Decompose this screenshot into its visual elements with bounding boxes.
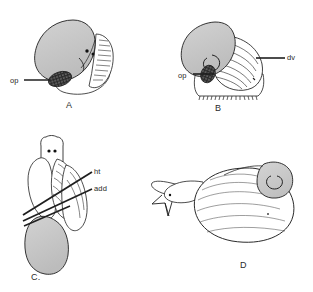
panel-d-eyespot xyxy=(169,194,171,196)
panel-a-eyespot-right xyxy=(92,53,95,56)
panel-d-apical-spire xyxy=(257,162,293,198)
panel-c-eyespot-right xyxy=(53,149,56,152)
panel-a-eyespot-left xyxy=(85,49,88,52)
panel-letter-b: B xyxy=(215,103,221,113)
panel-letter-a: A xyxy=(66,100,72,110)
figure-plate xyxy=(0,0,313,292)
panel-c-eyespot-left xyxy=(47,149,50,152)
annotation-ht-panel-c: ht xyxy=(94,167,101,176)
panel-letter-d: D xyxy=(240,260,247,270)
panel-letter-c: C. xyxy=(31,272,41,282)
annotation-add-panel-c: add xyxy=(94,184,107,193)
panel-d-surface-dot xyxy=(267,213,269,215)
annotation-op-panel-a: op xyxy=(10,76,19,85)
annotation-op-panel-b: op xyxy=(178,71,187,80)
annotation-dv-panel-b: dv xyxy=(287,53,295,62)
